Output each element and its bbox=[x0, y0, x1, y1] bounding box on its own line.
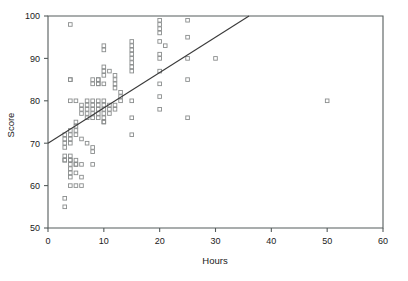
data-point-marker bbox=[63, 158, 67, 162]
data-point-marker bbox=[102, 65, 106, 69]
data-point-marker bbox=[158, 18, 162, 22]
data-point-marker bbox=[130, 133, 134, 137]
data-point-marker bbox=[96, 82, 100, 86]
data-point-marker bbox=[63, 158, 67, 162]
data-point-marker bbox=[186, 116, 190, 120]
data-point-marker bbox=[108, 69, 112, 73]
data-point-marker bbox=[69, 158, 73, 162]
data-point-marker bbox=[102, 116, 106, 120]
x-tick-label: 10 bbox=[99, 236, 109, 246]
data-point-marker bbox=[96, 78, 100, 82]
data-point-marker bbox=[102, 99, 106, 103]
data-point-marker bbox=[102, 112, 106, 116]
y-tick-label: 90 bbox=[30, 54, 40, 64]
data-point-marker bbox=[325, 99, 329, 103]
x-tick-label: 0 bbox=[45, 236, 50, 246]
scatter-chart: 0102030405060 5060708090100 Hours Score bbox=[0, 0, 408, 281]
data-point-marker bbox=[63, 146, 67, 150]
plot-frame bbox=[48, 16, 383, 228]
regression-line bbox=[48, 16, 249, 143]
data-point-marker bbox=[91, 99, 95, 103]
x-tick-label: 50 bbox=[322, 236, 332, 246]
data-point-marker bbox=[158, 40, 162, 44]
data-point-marker bbox=[91, 163, 95, 167]
data-point-marker bbox=[186, 78, 190, 82]
data-point-marker bbox=[69, 158, 73, 162]
data-point-marker bbox=[74, 184, 78, 188]
data-point-marker bbox=[91, 146, 95, 150]
data-point-marker bbox=[108, 107, 112, 111]
y-tick-label: 60 bbox=[30, 181, 40, 191]
data-point-marker bbox=[96, 78, 100, 82]
data-point-marker bbox=[63, 137, 67, 141]
data-point-marker bbox=[113, 103, 117, 107]
data-point-marker bbox=[113, 78, 117, 82]
data-point-marker bbox=[130, 61, 134, 65]
data-point-marker bbox=[113, 74, 117, 78]
data-point-marker bbox=[80, 107, 84, 111]
data-point-marker bbox=[69, 184, 73, 188]
y-axis-tick-labels: 5060708090100 bbox=[25, 11, 40, 233]
data-point-marker bbox=[102, 82, 106, 86]
data-point-marker bbox=[158, 27, 162, 31]
x-axis-ticks bbox=[48, 228, 383, 232]
data-point-marker bbox=[108, 112, 112, 116]
data-point-marker bbox=[158, 52, 162, 56]
data-point-marker bbox=[74, 133, 78, 137]
chart-canvas: 0102030405060 5060708090100 Hours Score bbox=[0, 0, 408, 281]
data-point-marker bbox=[69, 163, 73, 167]
data-point-marker bbox=[158, 31, 162, 35]
data-point-marker bbox=[69, 99, 73, 103]
data-point-marker bbox=[63, 205, 67, 209]
data-point-marker bbox=[130, 52, 134, 56]
data-point-marker bbox=[63, 154, 67, 158]
data-point-marker bbox=[85, 99, 89, 103]
data-point-marker bbox=[186, 18, 190, 22]
data-point-marker bbox=[63, 141, 67, 145]
data-point-marker bbox=[91, 150, 95, 154]
y-tick-label: 80 bbox=[30, 96, 40, 106]
x-tick-label: 20 bbox=[155, 236, 165, 246]
data-point-marker bbox=[69, 78, 73, 82]
data-point-marker bbox=[130, 99, 134, 103]
data-point-marker bbox=[74, 171, 78, 175]
data-point-marker bbox=[130, 69, 134, 73]
data-point-marker bbox=[130, 40, 134, 44]
data-point-marker bbox=[74, 158, 78, 162]
data-point-marker bbox=[91, 82, 95, 86]
data-point-marker bbox=[186, 57, 190, 61]
data-point-marker bbox=[69, 133, 73, 137]
data-point-marker bbox=[69, 167, 73, 171]
data-point-marker bbox=[69, 78, 73, 82]
data-point-marker bbox=[96, 99, 100, 103]
data-point-marker bbox=[69, 171, 73, 175]
data-point-marker bbox=[69, 141, 73, 145]
x-axis-tick-labels: 0102030405060 bbox=[45, 236, 388, 246]
data-point-marker bbox=[69, 137, 73, 141]
y-axis-ticks bbox=[44, 16, 48, 228]
data-point-marker bbox=[69, 154, 73, 158]
data-point-marker bbox=[80, 103, 84, 107]
data-point-marker bbox=[74, 129, 78, 133]
data-point-marker bbox=[130, 65, 134, 69]
data-point-marker bbox=[102, 48, 106, 52]
data-point-marker bbox=[163, 44, 167, 48]
data-point-marker bbox=[85, 107, 89, 111]
data-point-marker bbox=[74, 163, 78, 167]
x-tick-label: 60 bbox=[378, 236, 388, 246]
data-point-marker bbox=[80, 184, 84, 188]
data-point-marker bbox=[96, 82, 100, 86]
data-point-marker bbox=[80, 175, 84, 179]
data-point-marker bbox=[113, 86, 117, 90]
y-axis-label: Score bbox=[5, 113, 16, 138]
data-point-marker bbox=[91, 103, 95, 107]
data-point-marker bbox=[102, 120, 106, 124]
data-point-marker bbox=[102, 44, 106, 48]
y-tick-label: 70 bbox=[30, 139, 40, 149]
data-point-marker bbox=[102, 120, 106, 124]
data-point-marker bbox=[96, 116, 100, 120]
data-point-marker bbox=[96, 103, 100, 107]
data-point-marker bbox=[91, 116, 95, 120]
data-point-marker bbox=[119, 99, 123, 103]
data-point-marker bbox=[63, 197, 67, 201]
